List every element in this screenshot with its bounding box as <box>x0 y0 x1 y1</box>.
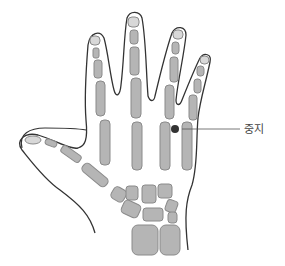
hand-skeleton-diagram <box>0 0 285 266</box>
bones <box>25 17 209 255</box>
marker-label: 중지 <box>244 120 264 136</box>
marker-dot <box>171 125 179 133</box>
